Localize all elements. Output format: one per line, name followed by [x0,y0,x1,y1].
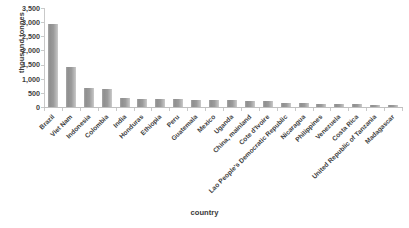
y-axis-tick-mark [41,8,44,9]
bar [173,99,183,107]
bar [209,100,219,107]
bar [352,104,362,107]
x-axis-tick-mark [134,108,135,111]
x-axis-tick-mark [116,108,117,111]
x-axis-tick-mark [313,108,314,111]
bar [66,67,76,107]
y-axis-tick-mark [41,93,44,94]
x-axis-title: country [0,208,409,217]
y-axis-tick-label: 500 [4,89,40,98]
x-axis-tick-mark [80,108,81,111]
y-axis-tick-label: 3,000 [4,18,40,27]
bar [281,103,291,107]
x-axis-tick-mark [223,108,224,111]
x-axis-tick-mark [402,108,403,111]
x-axis-tick-mark [151,108,152,111]
y-axis-tick-labels: 3,5003,0002,5002,0001,5001,0005000 [0,0,40,115]
bar [102,89,112,107]
bar [191,100,201,107]
bar-chart: thousand tonnes 3,5003,0002,5002,0001,50… [0,0,409,228]
bar [48,24,58,107]
bar [245,101,255,108]
x-axis-tick-mark [98,108,99,111]
y-axis-tick-label: 0 [4,103,40,112]
x-axis-tick-mark [241,108,242,111]
bar [316,104,326,107]
y-axis-tick-label: 3,500 [4,4,40,13]
y-axis-tick-label: 1,500 [4,60,40,69]
bar [388,105,398,107]
x-axis-tick-mark [384,108,385,111]
bar [155,99,165,107]
bar [120,98,130,107]
bar [263,101,273,107]
x-axis-tick-mark [277,108,278,111]
bar [299,103,309,107]
x-axis-tick-mark [366,108,367,111]
x-axis-tick-mark [295,108,296,111]
y-axis-tick-mark [41,65,44,66]
y-axis-tick-mark [41,79,44,80]
x-axis-tick-mark [330,108,331,111]
y-axis-tick-label: 1,000 [4,75,40,84]
y-axis-tick-mark [41,22,44,23]
y-axis-tick-label: 2,500 [4,32,40,41]
x-axis-tick-mark [348,108,349,111]
y-axis-tick-label: 2,000 [4,46,40,55]
x-axis-tick-mark [205,108,206,111]
x-axis-tick-mark [44,108,45,111]
bar [137,99,147,107]
plot-area [44,8,402,107]
bar [334,104,344,107]
y-axis-tick-mark [41,36,44,37]
x-axis-tick-mark [187,108,188,111]
y-axis-tick-mark [41,50,44,51]
bar [227,100,237,107]
x-axis-tick-mark [259,108,260,111]
bar [370,105,380,107]
x-axis-tick-mark [169,108,170,111]
bar [84,88,94,107]
x-axis-tick-mark [62,108,63,111]
